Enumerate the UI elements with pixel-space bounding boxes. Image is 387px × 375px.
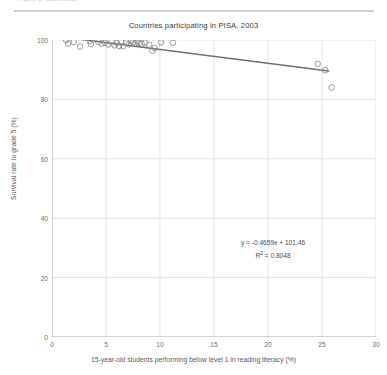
x-axis-tick-labels: 051015202530 — [52, 341, 376, 353]
gridlines — [52, 40, 376, 337]
x-tick-label: 30 — [361, 341, 387, 348]
horizontal-divider — [14, 10, 374, 12]
x-tick-label: 20 — [253, 341, 283, 348]
y-axis-tick-labels: 020406080100 — [18, 40, 48, 337]
data-point — [329, 85, 335, 91]
chart-title: Countries participating in PISA, 2003 — [0, 21, 387, 30]
y-tick-label: 60 — [22, 155, 48, 162]
x-tick-label: 15 — [199, 341, 229, 348]
y-tick-label: 20 — [22, 274, 48, 281]
regression-equation: y = -0.4659x + 101.46 — [208, 238, 338, 248]
y-tick-label: 0 — [22, 334, 48, 341]
y-tick-label: 100 — [22, 37, 48, 44]
scatter-plot-svg — [52, 40, 376, 337]
trendline — [62, 40, 329, 71]
data-point — [77, 44, 83, 50]
data-point — [158, 40, 164, 45]
y-tick-label: 40 — [22, 215, 48, 222]
x-tick-label: 25 — [307, 341, 337, 348]
x-tick-label: 5 — [91, 341, 121, 348]
data-point — [170, 40, 176, 45]
figure-container: Figure 1. (continued) Countries particip… — [0, 0, 387, 375]
regression-annotation: y = -0.4659x + 101.46 R2 = 0.8048 — [208, 238, 338, 261]
y-axis-title: Survival rate to grade 5 (%) — [10, 79, 17, 239]
x-tick-label: 10 — [145, 341, 175, 348]
r-squared-value: R2 = 0.8048 — [208, 248, 338, 261]
x-tick-label: 0 — [37, 341, 67, 348]
y-tick-label: 80 — [22, 96, 48, 103]
x-axis-title: 15-year-old students performing below le… — [0, 356, 387, 363]
r-squared-number: = 0.8048 — [263, 252, 291, 259]
data-points — [63, 40, 334, 90]
plot-area — [52, 40, 376, 337]
data-point — [315, 61, 321, 67]
data-point — [71, 40, 77, 45]
figure-caption-cutoff: Figure 1. (continued) — [18, 0, 78, 2]
